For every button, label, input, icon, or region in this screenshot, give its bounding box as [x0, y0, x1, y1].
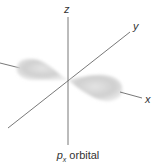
- z-axis-label: z: [63, 3, 70, 15]
- diagram-caption: px orbital: [0, 149, 156, 163]
- y-axis-label: y: [132, 20, 140, 32]
- orbital-lobe-positive: [68, 75, 122, 101]
- orbital-lobe-negative: [17, 59, 68, 80]
- orbital-diagram: z y x: [0, 0, 156, 167]
- x-axis-front: [120, 92, 142, 98]
- caption-text: orbital: [66, 149, 99, 161]
- x-axis-label: x: [144, 93, 151, 105]
